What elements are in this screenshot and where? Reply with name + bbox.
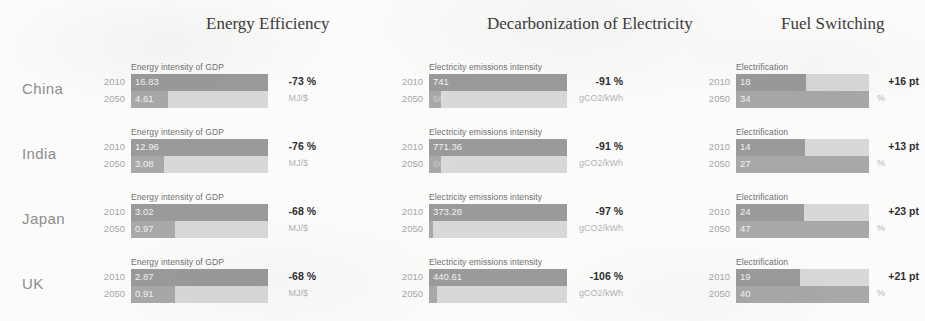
year-label-2010: 2010 <box>95 141 125 152</box>
bar-row-2010: 2010 2.87 <box>95 269 320 286</box>
bar-row-2010: 2010 16.83 <box>95 74 320 91</box>
delta-value: -76 % <box>289 140 316 152</box>
year-label-2010: 2010 <box>393 271 423 282</box>
bar-value-2050: 34 <box>740 93 751 104</box>
unit-label: % <box>877 223 885 233</box>
bar-track: 3.08 <box>131 156 268 173</box>
year-label-2050: 2050 <box>393 223 423 234</box>
bar-value-2010: 741 <box>433 76 449 87</box>
metric-label: Electrification <box>736 192 788 202</box>
year-label-2050: 2050 <box>95 93 125 104</box>
year-label-2010: 2010 <box>95 271 125 282</box>
bar-track: 12.96 <box>131 139 268 156</box>
year-label-2010: 2010 <box>393 141 423 152</box>
unit-label: MJ/$ <box>288 93 308 103</box>
bar-track: 47 <box>736 221 869 238</box>
unit-label: gCO2/kWh <box>579 158 623 168</box>
metric-label: Electricity emissions intensity <box>429 257 542 267</box>
bar-value-2010: 440.61 <box>433 271 462 282</box>
bar-value-2010: 2.87 <box>135 271 154 282</box>
year-label-2010: 2010 <box>700 206 730 217</box>
bar-value-2010: 18 <box>740 76 751 87</box>
bar-row-2050: 2050 47 <box>700 221 925 238</box>
bar-value-2010: 14 <box>740 141 751 152</box>
unit-label: MJ/$ <box>288 223 308 233</box>
bar-track: 18 <box>736 74 869 91</box>
unit-label: gCO2/kWh <box>579 288 623 298</box>
bar-value-2050: 27 <box>740 158 751 169</box>
bar-track: 24 <box>736 204 869 221</box>
year-label-2050: 2050 <box>700 223 730 234</box>
bar-row-2050: 2050 40 <box>700 286 925 303</box>
bar-value-2010: 771.36 <box>433 141 462 152</box>
delta-value: +23 pt <box>888 205 919 217</box>
bar-track: 40 <box>736 286 869 303</box>
bar-row-2010: 2010 3.02 <box>95 204 320 221</box>
bar-track: 373.28 <box>429 204 567 221</box>
column-title-fuel-switching: Fuel Switching <box>781 14 884 34</box>
metric-label: Electricity emissions intensity <box>429 62 542 72</box>
year-label-2010: 2010 <box>95 76 125 87</box>
bar-row-2010: 2010 373.28 <box>393 204 625 221</box>
chart-row: UK Energy intensity of GDP 2010 2.87 205… <box>0 257 925 319</box>
delta-value: +21 pt <box>888 270 919 282</box>
year-label-2050: 2050 <box>95 288 125 299</box>
bar-value-2010: 16.83 <box>135 76 159 87</box>
bar-value-2010: 3.02 <box>135 206 154 217</box>
metric-label: Energy intensity of GDP <box>131 127 224 137</box>
metric-label: Electricity emissions intensity <box>429 127 542 137</box>
chart-sheet: Energy Efficiency Decarbonization of Ele… <box>0 0 925 321</box>
year-label-2010: 2010 <box>393 76 423 87</box>
year-label-2050: 2050 <box>393 158 423 169</box>
unit-label: MJ/$ <box>288 158 308 168</box>
delta-value: -106 % <box>590 270 623 282</box>
bar-value-2050: -27.4 <box>433 288 455 299</box>
bar-value-2050: 47 <box>740 223 751 234</box>
bar-track: 68 <box>429 91 567 108</box>
bar-track: 11.14 <box>429 221 567 238</box>
year-label-2050: 2050 <box>700 288 730 299</box>
bar-track: 4.61 <box>131 91 268 108</box>
delta-value: -91 % <box>596 140 623 152</box>
row-label-country: Japan <box>22 210 88 227</box>
bar-track: 27 <box>736 156 869 173</box>
bar-row-2050: 2050 4.61 <box>95 91 320 108</box>
metric-label: Electrification <box>736 257 788 267</box>
bar-value-2050: 0.91 <box>135 288 154 299</box>
bar-row-2010: 2010 741 <box>393 74 625 91</box>
bar-row-2050: 2050 3.08 <box>95 156 320 173</box>
unit-label: gCO2/kWh <box>579 93 623 103</box>
bar-track: 14 <box>736 139 869 156</box>
year-label-2050: 2050 <box>700 93 730 104</box>
unit-label: MJ/$ <box>288 288 308 298</box>
metric-label: Electricity emissions intensity <box>429 192 542 202</box>
bar-fill-2050 <box>736 286 869 303</box>
bar-value-2050: 4.61 <box>135 93 154 104</box>
bar-value-2050: 0.97 <box>135 223 154 234</box>
bar-value-2010: 373.28 <box>433 206 462 217</box>
delta-value: +13 pt <box>888 140 919 152</box>
bar-value-2050: 40 <box>740 288 751 299</box>
bar-row-2050: 2050 34 <box>700 91 925 108</box>
row-label-country: China <box>22 80 88 97</box>
bar-value-2010: 19 <box>740 271 751 282</box>
unit-label: % <box>877 158 885 168</box>
unit-label: gCO2/kWh <box>579 223 623 233</box>
year-label-2050: 2050 <box>393 93 423 104</box>
year-label-2050: 2050 <box>95 158 125 169</box>
delta-value: -73 % <box>289 75 316 87</box>
metric-label: Energy intensity of GDP <box>131 257 224 267</box>
column-title-energy-efficiency: Energy Efficiency <box>206 14 330 34</box>
year-label-2050: 2050 <box>393 288 423 299</box>
bar-fill-2050 <box>736 156 869 173</box>
year-label-2050: 2050 <box>700 158 730 169</box>
chart-row: China Energy intensity of GDP 2010 16.83… <box>0 62 925 124</box>
bar-track: 34 <box>736 91 869 108</box>
delta-value: -97 % <box>596 205 623 217</box>
unit-label: % <box>877 288 885 298</box>
bar-track: 3.02 <box>131 204 268 221</box>
delta-value: -68 % <box>289 270 316 282</box>
year-label-2010: 2010 <box>700 271 730 282</box>
chart-row: Japan Energy intensity of GDP 2010 3.02 … <box>0 192 925 254</box>
unit-label: % <box>877 93 885 103</box>
